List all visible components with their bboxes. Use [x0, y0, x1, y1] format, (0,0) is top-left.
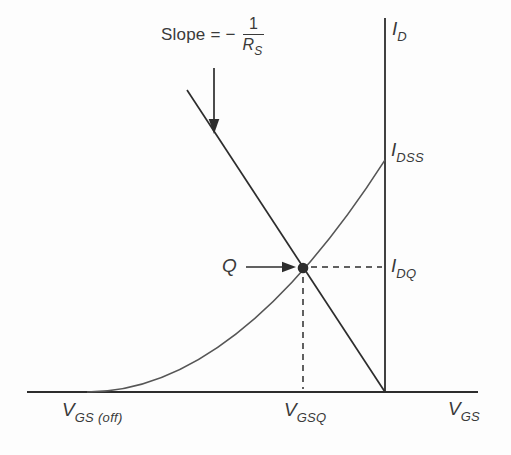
idss-label: IDSS: [391, 140, 424, 159]
vgs-axis-label: VGS: [448, 399, 480, 418]
vgsq-label: VGSQ: [284, 400, 326, 419]
id-axis-label: ID: [392, 19, 407, 38]
q-pointer-arrowhead-icon: [282, 262, 296, 273]
transfer-characteristic-curve: [87, 160, 385, 392]
slope-label-prefix: Slope = −: [161, 26, 236, 43]
slope-fraction-denominator: RS: [243, 35, 265, 53]
self-bias-load-line: [187, 90, 385, 392]
slope-fraction-numerator: 1: [247, 16, 260, 34]
diagram-canvas: [0, 0, 511, 455]
q-point-label: Q: [222, 256, 237, 275]
jfet-self-bias-figure: Slope = − 1 RS ID IDSS IDQ Q VGS (off) V…: [0, 0, 511, 455]
slope-label: Slope = − 1 RS: [161, 16, 264, 53]
idq-label: IDQ: [391, 256, 416, 275]
vgsoff-label: VGS (off): [62, 400, 123, 419]
slope-fraction: 1 RS: [243, 16, 265, 53]
q-point-dot: [298, 263, 309, 274]
